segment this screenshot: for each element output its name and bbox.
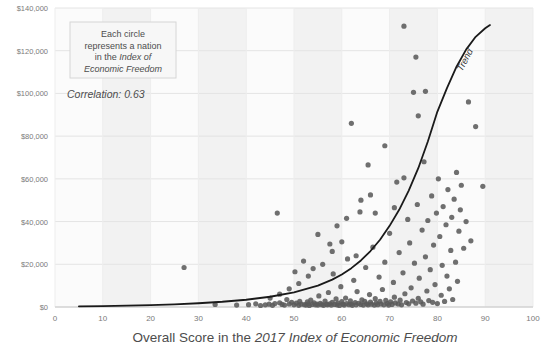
data-point [382,143,387,148]
data-point [373,296,378,301]
data-point [425,218,430,223]
data-point [413,55,418,60]
data-point [363,265,368,270]
data-point [287,286,292,291]
data-point [421,159,426,164]
data-point [376,275,381,280]
data-point [397,250,402,255]
data-point [420,228,425,233]
data-point [315,232,320,237]
data-point [392,295,397,300]
data-point [327,241,332,246]
data-point [454,170,459,175]
x-tick-label: 30 [194,314,203,323]
data-point [436,176,441,181]
data-point [357,209,362,214]
x-tick-label: 10 [98,314,107,323]
data-point [420,302,425,307]
data-point [284,297,289,302]
data-point [275,210,280,215]
data-point [473,124,478,129]
data-point [282,302,287,307]
data-point [444,273,449,278]
data-point [373,210,378,215]
x-tick-label: 20 [146,314,155,323]
data-point [449,215,454,220]
data-point [301,258,306,263]
data-point [423,89,428,94]
data-point [415,202,420,207]
data-point [417,276,422,281]
data-point [440,263,445,268]
chart-svg: $0$20,000$40,000$60,000$80,000$100,000$1… [0,0,541,350]
data-point [441,204,446,209]
y-tick-label: $100,000 [17,89,48,98]
callout-line: in the Index of [95,52,153,62]
y-tick-label: $60,000 [21,175,48,184]
data-point [272,301,277,306]
data-point [458,207,463,212]
data-point [253,301,258,306]
callout-line: represents a nation [84,41,161,51]
x-tick-label: 90 [481,314,490,323]
data-point [424,288,429,293]
y-tick-label: $20,000 [21,260,48,269]
data-point [447,286,452,291]
data-point [401,24,406,29]
data-point [382,260,387,265]
data-point [306,273,311,278]
data-point [331,271,336,276]
data-point [316,293,321,298]
data-point [380,287,385,292]
data-point [466,99,471,104]
data-point [452,197,457,202]
data-point [351,278,356,283]
data-point [455,279,460,284]
y-tick-label: $0 [40,303,48,312]
x-tick-label: 100 [526,314,540,323]
data-point [344,216,349,221]
data-point [320,262,325,267]
data-point [461,246,466,251]
data-point [409,285,414,290]
data-point [365,162,370,167]
data-point [437,234,442,239]
data-point [387,231,392,236]
data-point [326,290,331,295]
data-point [430,300,435,305]
data-point [407,240,412,245]
y-tick-label: $120,000 [17,47,48,56]
data-point [338,284,343,289]
data-point [411,90,416,95]
data-point [413,301,418,306]
data-point [450,297,455,302]
data-point [296,281,301,286]
data-point [453,260,458,265]
data-point [402,291,407,296]
data-point [459,183,464,188]
data-point [429,193,434,198]
data-point [358,198,363,203]
data-point [480,184,485,189]
data-point [456,229,461,234]
data-point [442,299,447,304]
callout-line: Economic Freedom [84,64,163,74]
data-point [400,270,405,275]
data-point [432,282,437,287]
data-point [345,256,350,261]
data-point [435,301,440,306]
data-point [339,239,344,244]
x-tick-label: 60 [337,314,346,323]
data-point [392,205,397,210]
x-tick-label: 50 [290,314,299,323]
data-point [355,289,360,294]
y-tick-label: $80,000 [21,132,48,141]
data-point [399,302,404,307]
data-point [416,113,421,118]
data-point [258,303,263,308]
vertical-band [485,8,533,307]
data-point [354,253,359,258]
data-point [292,269,297,274]
y-tick-label: $140,000 [17,4,48,13]
data-point [311,266,316,271]
